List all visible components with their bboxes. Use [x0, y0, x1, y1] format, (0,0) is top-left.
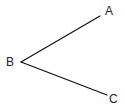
ray-bc: [21, 62, 107, 95]
ray-ba: [21, 16, 100, 62]
point-label-a: A: [105, 4, 113, 18]
angle-diagram: A B C: [0, 0, 125, 110]
point-label-c: C: [109, 92, 118, 106]
point-label-b: B: [6, 55, 14, 69]
